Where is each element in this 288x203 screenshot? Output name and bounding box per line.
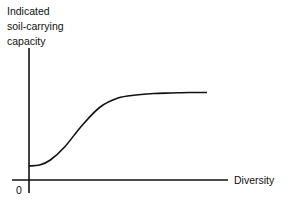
- capacity-curve: [29, 92, 207, 166]
- chart-plot: [0, 0, 288, 203]
